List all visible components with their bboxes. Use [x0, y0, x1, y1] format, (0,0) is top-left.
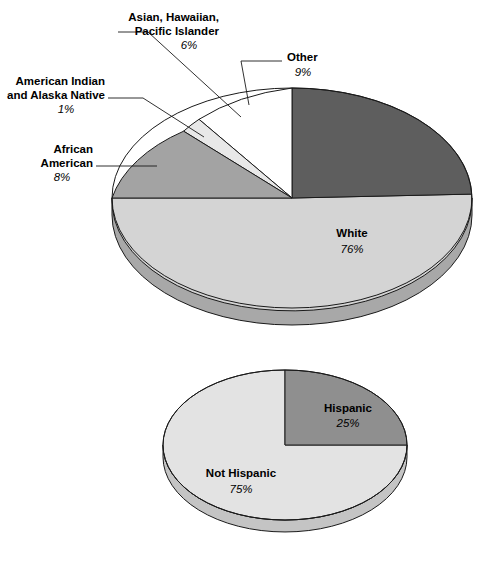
- two-pie-chart-figure: Asian, Hawaiian, Pacific Islander 6% Ame…: [0, 0, 485, 574]
- label-other: Other 9%: [287, 51, 318, 78]
- pie-slices-hispanic: [163, 370, 407, 520]
- chart-race-distribution: Asian, Hawaiian, Pacific Islander 6% Ame…: [7, 11, 472, 325]
- label-african-american: African American 8%: [41, 143, 93, 183]
- label-american-indian-line2: and Alaska Native: [7, 89, 105, 101]
- label-other-percent: 9%: [295, 66, 312, 78]
- chart-hispanic-origin: Hispanic 25% Not Hispanic 75%: [163, 370, 407, 532]
- label-hispanic-line1: Hispanic: [324, 402, 373, 414]
- label-american-indian-alaska-native: American Indian and Alaska Native 1%: [7, 75, 105, 115]
- label-african-american-line2: American: [41, 157, 93, 169]
- pie-slices-race: [112, 88, 472, 311]
- slice-other[interactable]: [292, 88, 472, 198]
- label-white-line1: White: [336, 227, 367, 239]
- label-african-american-line1: African: [53, 143, 93, 155]
- label-american-indian-line1: American Indian: [16, 75, 105, 87]
- label-other-line1: Other: [287, 51, 318, 63]
- leader-line-asian: [118, 32, 241, 117]
- label-asian-percent: 6%: [181, 39, 198, 51]
- label-asian-line2: Pacific Islander: [135, 25, 220, 37]
- label-white-percent: 76%: [340, 243, 363, 255]
- label-hispanic-percent: 25%: [335, 417, 359, 429]
- label-not-hispanic-percent: 75%: [229, 483, 252, 495]
- label-asian-line1: Asian, Hawaiian,: [128, 11, 219, 23]
- label-american-indian-percent: 1%: [58, 103, 75, 115]
- label-african-american-percent: 8%: [54, 171, 71, 183]
- label-asian-hawaiian-pacific-islander: Asian, Hawaiian, Pacific Islander 6%: [128, 11, 219, 51]
- label-not-hispanic-line1: Not Hispanic: [206, 467, 277, 479]
